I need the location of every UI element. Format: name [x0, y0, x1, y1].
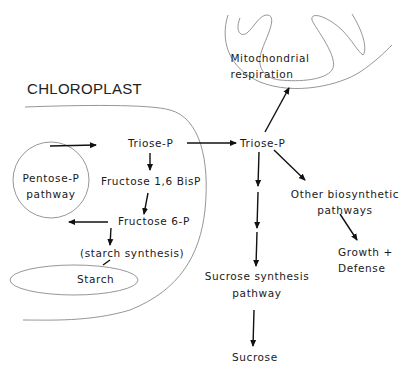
starch-granule — [10, 265, 138, 295]
arrow-pentose-to-triose — [50, 145, 96, 146]
arrow-f6p-to-starch-synthesis — [110, 228, 111, 245]
arrow-triose-to-sucrose-2 — [257, 192, 258, 228]
mitochondrial-respiration-line-1: Mitochondrial — [230, 50, 309, 66]
arrow-sucrose-synthesis-to-sucrose — [253, 310, 254, 346]
chloroplast-label: CHLOROPLAST — [27, 82, 142, 95]
pentose-p-line-1: Pentose-P — [22, 170, 79, 186]
pentose-p-pathway-label: Pentose-P pathway — [22, 170, 79, 202]
pentose-p-line-2: pathway — [22, 186, 79, 202]
other-biosynthetic-line-2: pathways — [291, 202, 399, 218]
arrow-starch-synthesis-to-starch — [103, 260, 110, 265]
triose-p-cytosol: Triose-P — [240, 137, 285, 150]
other-biosynthetic-label: Other biosynthetic pathways — [291, 186, 399, 218]
sucrose-synthesis-line-1: Sucrose synthesis — [205, 268, 310, 285]
arrow-bisp-to-f6p — [144, 193, 148, 214]
arrow-triose-to-sucrose-1 — [258, 152, 259, 186]
growth-defense-label: Growth + Defense — [338, 244, 393, 276]
mitochondrial-respiration-label: Mitochondrial respiration — [230, 50, 309, 82]
arrow-triose-to-mitochondrion — [265, 88, 289, 132]
chloroplast-membrane — [23, 105, 206, 320]
defense-line: Defense — [338, 260, 393, 276]
starch-synthesis: (starch synthesis) — [80, 247, 184, 260]
sucrose-synthesis-line-2: pathway — [205, 285, 310, 302]
arrow-triose-to-other-pathways — [274, 150, 305, 180]
fructose-6p: Fructose 6-P — [118, 215, 190, 228]
starch-label: Starch — [77, 273, 114, 286]
growth-line: Growth + — [338, 244, 393, 260]
sucrose-label: Sucrose — [232, 351, 278, 364]
fructose-bisp: Fructose 1,6 BisP — [101, 175, 201, 188]
triose-p-chloroplast: Triose-P — [128, 137, 173, 150]
sucrose-synthesis-label: Sucrose synthesis pathway — [205, 268, 310, 302]
arrow-triose-to-sucrose-3 — [256, 232, 257, 266]
other-biosynthetic-line-1: Other biosynthetic — [291, 186, 399, 202]
mitochondrial-respiration-line-2: respiration — [230, 66, 309, 82]
